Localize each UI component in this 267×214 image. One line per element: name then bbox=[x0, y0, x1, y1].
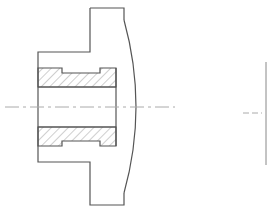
section-drawing bbox=[0, 0, 267, 214]
lower-bushing-section bbox=[38, 127, 116, 146]
upper-bushing-section bbox=[38, 68, 116, 87]
hub-outline-top bbox=[90, 8, 124, 20]
